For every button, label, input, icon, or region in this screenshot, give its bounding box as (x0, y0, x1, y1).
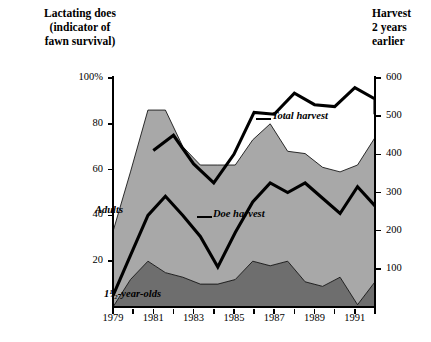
right-tick-600 (376, 77, 381, 79)
x-tick-label-1983: 1983 (174, 312, 214, 323)
leader-line-total-harvest (256, 118, 271, 120)
left-tick-20 (108, 260, 113, 262)
x-tick-label-1981: 1981 (133, 312, 173, 323)
series-label-doe-harvest: Doe harvest (213, 208, 265, 219)
leader-line-doe-harvest (197, 216, 212, 218)
right-tick-400 (376, 154, 381, 156)
series-label-yearlings: 1¹⁄₂-year-olds (104, 288, 161, 299)
right-tick-100 (376, 268, 381, 270)
left-axis-title-line2: (indicator of (6, 20, 154, 34)
right-axis-title-line3: earlier (372, 34, 431, 48)
left-tick-label-20: 20 (57, 254, 103, 265)
left-tick-label-80: 80 (57, 117, 103, 128)
right-tick-200 (376, 230, 381, 232)
right-tick-label-500: 500 (386, 109, 426, 120)
left-tick-label-60: 60 (57, 163, 103, 174)
left-axis-line (112, 76, 114, 309)
chart-figure: Lactating does (indicator of fawn surviv… (0, 0, 431, 342)
left-axis-title-line3: fawn survival) (6, 34, 154, 48)
left-tick-80 (108, 123, 113, 125)
right-tick-label-200: 200 (386, 224, 426, 235)
right-tick-500 (376, 115, 381, 117)
right-tick-label-300: 300 (386, 186, 426, 197)
left-tick-label-100: 100% (57, 71, 103, 82)
left-axis-title-line1: Lactating does (6, 6, 154, 20)
right-axis-title-line1: Harvest (372, 6, 431, 20)
left-axis-title: Lactating does (indicator of fawn surviv… (6, 6, 154, 48)
x-tick-label-1991: 1991 (335, 312, 375, 323)
right-tick-label-400: 400 (386, 147, 426, 158)
x-tick-label-1987: 1987 (254, 312, 294, 323)
right-axis-title-line2: 2 years (372, 20, 431, 34)
left-tick-60 (108, 169, 113, 171)
left-tick-100 (108, 77, 113, 79)
plot-area (113, 78, 375, 307)
series-label-total-harvest: Total harvest (272, 110, 328, 121)
right-tick-label-600: 600 (386, 71, 426, 82)
series-label-adults: Adults (95, 204, 123, 215)
right-tick-label-100: 100 (386, 262, 426, 273)
x-tick-label-1979: 1979 (93, 312, 133, 323)
right-axis-title: Harvest 2 years earlier (372, 6, 431, 48)
x-tick-label-1985: 1985 (214, 312, 254, 323)
right-tick-300 (376, 192, 381, 194)
x-axis-line (112, 306, 376, 308)
x-tick-label-1989: 1989 (295, 312, 335, 323)
